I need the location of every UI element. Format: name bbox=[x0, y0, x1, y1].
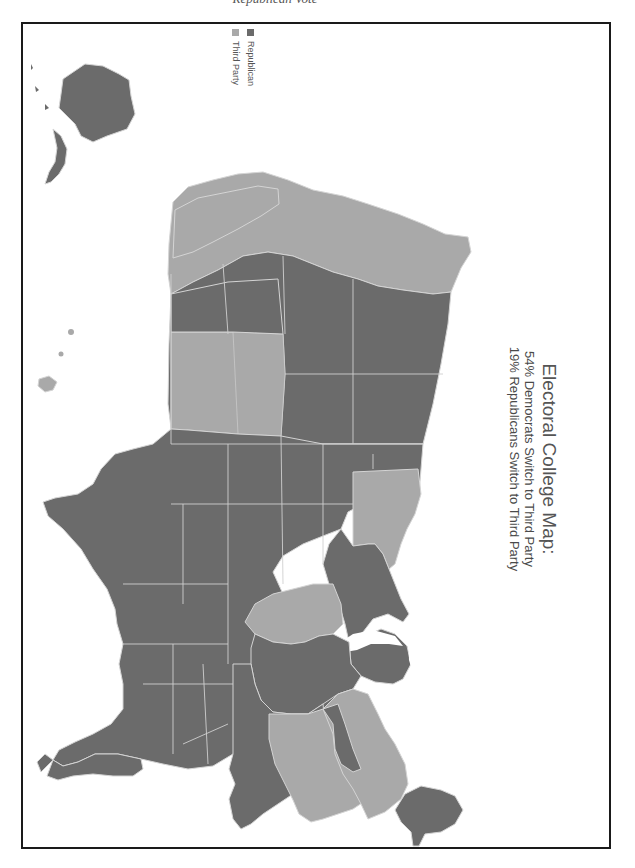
region-hawaii bbox=[38, 376, 57, 392]
lake-huron bbox=[408, 634, 425, 674]
map-title-block: Electoral College Map: 54% Democrats Swi… bbox=[507, 309, 561, 609]
republican-swatch-icon bbox=[247, 29, 254, 36]
region-maine bbox=[395, 786, 463, 846]
region-hawaii-island bbox=[68, 329, 74, 335]
region-alaska-peninsula bbox=[45, 129, 67, 184]
map-subtitle-republicans: 19% Republicans Switch to Third Party bbox=[507, 309, 522, 609]
legend-label-third-party: Third Party bbox=[231, 41, 241, 85]
region-hawaii-island bbox=[59, 352, 64, 357]
legend-item-republican: Republican bbox=[243, 29, 258, 86]
third-party-swatch-icon bbox=[232, 29, 239, 36]
map-frame: Republican Third Party Electoral College… bbox=[21, 22, 611, 849]
region-alaska bbox=[59, 64, 135, 142]
map-legend: Republican Third Party bbox=[228, 29, 258, 86]
map-title: Electoral College Map: bbox=[537, 309, 561, 609]
region-colorado bbox=[233, 332, 285, 436]
region-alaska-islands bbox=[31, 64, 49, 110]
page-caption: Republican Vote bbox=[165, 0, 385, 7]
legend-item-third-party: Third Party bbox=[228, 29, 243, 86]
legend-label-republican: Republican bbox=[246, 41, 256, 86]
map-subtitle-democrats: 54% Democrats Switch to Third Party bbox=[522, 309, 537, 609]
